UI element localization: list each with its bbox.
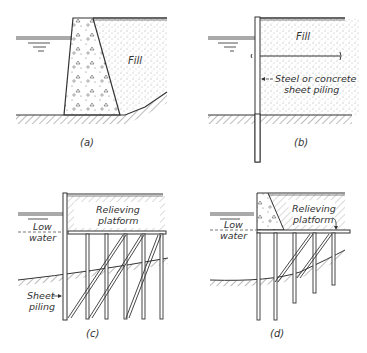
fill-label-a: Fill [128,55,142,66]
caption-b: (b) [294,137,308,148]
relieving-platform-deck-d [257,230,350,233]
panel-b: Fill Steel or concrete sheet piling (b) [208,17,360,162]
retaining-wall-diagram: Fill (a) Fill Steel or concrete sheet pi… [0,0,367,353]
platform-label-c-2: platform [97,215,139,226]
relieving-platform-deck-c [68,231,166,234]
low-water-label-d-1: Low [224,219,243,230]
platform-label-c-1: Relieving [96,204,140,215]
sheet-piling-label-c-1: Sheet [27,290,56,301]
sheet-piling-c [63,193,67,320]
low-water-label-d-2: water [220,230,248,241]
platform-label-d-2: platform [292,214,334,225]
panel-d: Relieving platform Low water (d) [210,193,350,339]
caption-a: (a) [80,137,94,148]
piling-label-b-1: Steel or concrete [275,73,357,84]
vertical-piles-c [86,234,163,319]
panel-c: Relieving platform Low water Sheet pilin… [18,193,168,339]
low-water-label-c-2: water [29,232,57,243]
low-water-label-c-1: Low [33,221,52,232]
platform-label-d-1: Relieving [292,203,336,214]
sheet-piling-label-c-2: piling [28,301,55,312]
caption-c: (c) [86,328,99,339]
caption-d: (d) [270,328,284,339]
fill-label-b: Fill [296,31,310,42]
water-surface-c [18,213,63,219]
panel-a: Fill (a) [16,18,167,148]
water-surface-b [208,37,255,51]
piling-label-b-2: sheet piling [284,84,339,95]
water-surface-a [16,37,72,51]
